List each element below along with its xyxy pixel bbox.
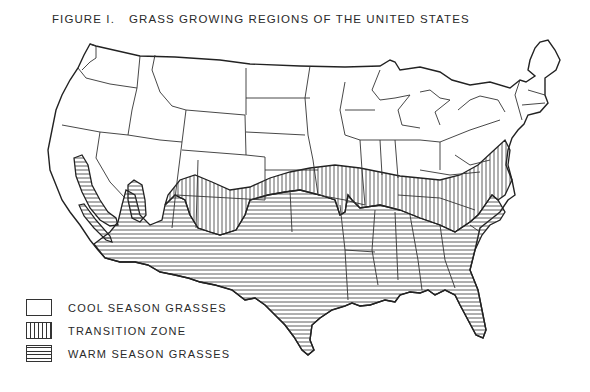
cool-season-swatch-icon (26, 299, 52, 316)
transition-zone-swatch-icon (26, 322, 52, 339)
legend-item-cool: COOL SEASON GRASSES (26, 296, 230, 319)
legend-item-transition: TRANSITION ZONE (26, 319, 230, 342)
legend-label: COOL SEASON GRASSES (68, 302, 227, 314)
legend-item-warm: WARM SEASON GRASSES (26, 342, 230, 365)
legend-label: TRANSITION ZONE (68, 325, 186, 337)
warm-season-swatch-icon (26, 345, 52, 362)
legend: COOL SEASON GRASSES TRANSITION ZONE WARM… (26, 296, 230, 365)
legend-label: WARM SEASON GRASSES (68, 348, 230, 360)
